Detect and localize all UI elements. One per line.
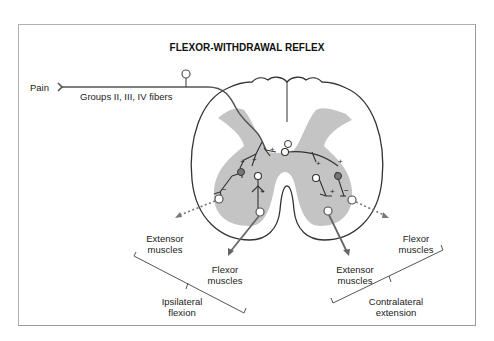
central-canal <box>285 141 292 148</box>
ipsi-interneuron <box>255 173 262 180</box>
svg-text:+: + <box>260 187 265 196</box>
contra-extensor-label: Extensor muscles <box>330 264 380 286</box>
pain-label: Pain <box>30 82 49 93</box>
ipsi-group-label: Ipsilateral flexion <box>152 296 212 318</box>
contra-flexor-inhibited-axon <box>356 202 384 215</box>
pain-receptor <box>58 83 62 91</box>
svg-text:+: + <box>252 155 257 164</box>
svg-text:+: + <box>316 159 321 168</box>
dorsal-root-ganglion <box>182 70 190 78</box>
svg-text:−: − <box>344 186 349 195</box>
fibers-label: Groups II, III, IV fibers <box>80 91 172 102</box>
contra-flexor-label: Flexor muscles <box>393 233 439 255</box>
svg-text:+: + <box>330 187 335 196</box>
contra-extensor-motoneuron <box>324 207 332 215</box>
contra-interneuron <box>313 175 320 182</box>
ipsi-extensor-motoneuron <box>215 195 223 203</box>
contra-flexor-motoneuron <box>348 196 356 204</box>
ipsi-extensor-label: Extensor muscles <box>140 233 190 255</box>
svg-text:+: + <box>240 157 245 166</box>
ipsi-flexor-motoneuron <box>256 208 264 216</box>
svg-text:+: + <box>338 157 343 166</box>
svg-text:+: + <box>270 145 275 154</box>
interneuron-cross <box>282 149 289 156</box>
ipsi-flexor-label: Flexor muscles <box>205 264 245 286</box>
ipsi-inhibitory-interneuron <box>238 169 245 176</box>
svg-text:−: − <box>222 185 227 194</box>
contra-group-label: Contralateral extension <box>360 296 432 318</box>
contra-inhibitory-interneuron <box>335 173 342 180</box>
spinal-cord-diagram: +++ +++ +−− <box>0 0 494 341</box>
